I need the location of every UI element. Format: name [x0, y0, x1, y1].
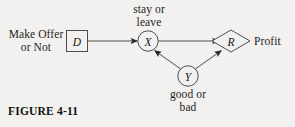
x-node-caption: stay or leave [133, 3, 165, 28]
figure-container: D X Y R Make Offer or Not stay or leave … [0, 0, 295, 127]
node-label-x: X [144, 36, 151, 48]
y-node-caption: good or bad [170, 88, 206, 113]
decision-node-caption-line2: or Not [9, 41, 64, 54]
node-label-d: D [73, 36, 81, 48]
y-node-caption-line1: good or [170, 88, 206, 101]
r-node-caption: Profit [254, 35, 281, 48]
decision-node-caption: Make Offer or Not [9, 28, 64, 53]
node-label-y: Y [185, 71, 191, 83]
y-node-caption-line2: bad [170, 101, 206, 114]
edge-y-to-x [155, 51, 181, 69]
x-node-caption-line1: stay or [133, 3, 165, 16]
edge-y-to-r [195, 51, 221, 69]
node-label-r: R [227, 36, 234, 48]
x-node-caption-line2: leave [133, 16, 165, 29]
figure-caption: FIGURE 4-11 [8, 105, 78, 117]
decision-node-caption-line1: Make Offer [9, 28, 64, 41]
